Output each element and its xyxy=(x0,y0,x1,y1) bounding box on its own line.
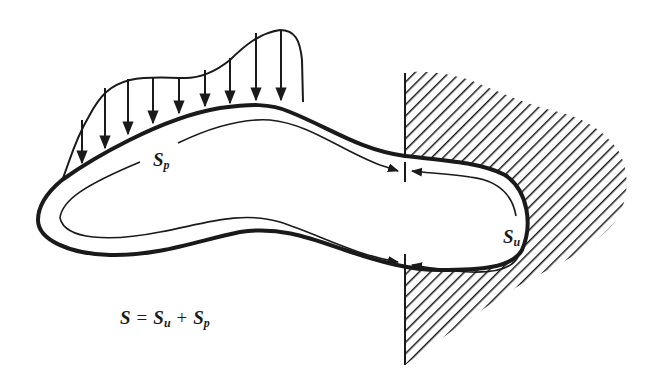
formula-equals: = xyxy=(131,307,154,328)
formula-term-su: Su xyxy=(153,307,170,328)
boundary-diagram xyxy=(0,0,660,388)
formula-term-sp: Sp xyxy=(193,307,210,328)
sp-label: Sp xyxy=(153,149,170,173)
boundary-formula: S=Su+Sp xyxy=(120,307,210,331)
formula-lhs: S xyxy=(120,307,131,328)
formula-plus: + xyxy=(171,307,194,328)
su-label: Su xyxy=(503,226,520,250)
